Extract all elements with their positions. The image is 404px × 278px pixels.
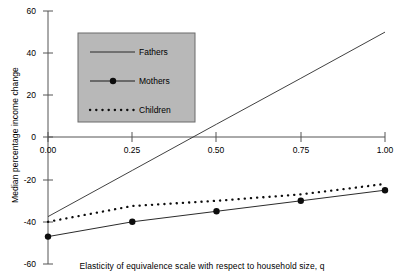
legend-label-children: Children [139, 105, 171, 115]
x-tick-label-050: 0.50 [196, 145, 236, 155]
x-axis-title: Elasticity of equivalence scale with res… [0, 261, 404, 271]
legend-label-fathers: Fathers [139, 47, 168, 57]
y-tick-label-60: 60 [2, 6, 36, 16]
legend-swatch-mothers-marker [110, 78, 116, 84]
x-tick-label-025: 0.25 [112, 145, 152, 155]
legend-label-mothers: Mothers [139, 76, 170, 86]
legend-box [78, 33, 195, 122]
plot-area [0, 0, 404, 278]
series-line-children [48, 184, 385, 222]
x-tick-label-100: 1.00 [365, 145, 404, 155]
chart-figure: 60 40 20 0 -20 -40 -60 0.00 0.25 0.50 0.… [0, 0, 404, 278]
x-tick-label-000: 0.00 [28, 145, 68, 155]
y-axis-title: Median percentage income change [10, 35, 20, 235]
x-tick-label-075: 0.75 [281, 145, 321, 155]
